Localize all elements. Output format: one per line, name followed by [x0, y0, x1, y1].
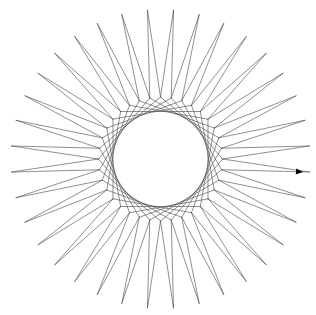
pattern-line — [55, 199, 113, 265]
pattern-line — [107, 112, 121, 190]
pattern-line — [99, 148, 139, 217]
pattern-line — [171, 220, 199, 303]
pattern-line — [99, 159, 150, 220]
pattern-line — [113, 105, 191, 119]
pattern-line — [200, 128, 214, 206]
pattern-line — [222, 170, 305, 198]
pattern-line — [171, 15, 199, 98]
turtle-arrow-icon — [296, 168, 303, 174]
pattern-line — [192, 24, 224, 106]
pattern-line — [99, 97, 160, 148]
pattern-line — [16, 120, 99, 148]
turtle-canvas — [0, 0, 316, 315]
pattern-line — [122, 217, 139, 303]
pattern-line — [16, 180, 102, 197]
pattern-line — [25, 96, 107, 128]
pattern-line — [150, 98, 219, 138]
pattern-line — [200, 112, 214, 190]
pattern-line — [219, 180, 305, 197]
pattern-line — [122, 220, 150, 303]
pattern-line — [182, 101, 222, 170]
pattern-line — [150, 180, 219, 220]
pattern-line — [182, 148, 222, 217]
pattern-line — [208, 53, 266, 119]
pattern-line — [182, 217, 224, 294]
pattern-line — [99, 98, 150, 159]
pattern-line — [25, 180, 102, 222]
pattern-line — [161, 97, 222, 148]
pattern-line — [161, 170, 222, 221]
pattern-line — [192, 213, 224, 295]
pattern-line — [102, 98, 171, 138]
pattern-line — [200, 53, 266, 111]
pattern-line — [182, 217, 199, 303]
pattern-line — [182, 24, 224, 101]
pattern-line — [130, 199, 208, 213]
pattern-line — [99, 101, 139, 170]
pattern-line — [25, 96, 102, 138]
pattern-line — [171, 98, 222, 159]
pattern-line — [113, 199, 191, 213]
pattern-lines — [12, 10, 310, 308]
pattern-line — [55, 206, 121, 264]
pattern-line — [107, 128, 121, 206]
pattern-line — [214, 96, 296, 128]
pattern-line — [200, 206, 266, 264]
pattern-line — [55, 53, 121, 111]
pattern-line — [102, 180, 171, 220]
pattern-line — [97, 24, 129, 106]
pattern-line — [122, 15, 150, 98]
pattern-line — [25, 190, 107, 222]
pattern-line — [182, 15, 199, 101]
pattern-line — [97, 213, 129, 295]
pattern-line — [222, 120, 305, 148]
pattern-line — [219, 120, 305, 137]
pattern-line — [99, 170, 160, 221]
pattern-line — [55, 53, 113, 119]
star-pattern-drawing — [0, 0, 316, 315]
pattern-line — [97, 217, 139, 294]
pattern-line — [122, 15, 139, 101]
pattern-line — [214, 190, 296, 222]
pattern-line — [219, 180, 296, 222]
pattern-line — [16, 170, 99, 198]
pattern-line — [171, 159, 222, 220]
pattern-line — [208, 199, 266, 265]
pattern-line — [219, 96, 296, 138]
pattern-line — [16, 120, 102, 137]
pattern-line — [130, 105, 208, 119]
pattern-line — [97, 24, 139, 101]
